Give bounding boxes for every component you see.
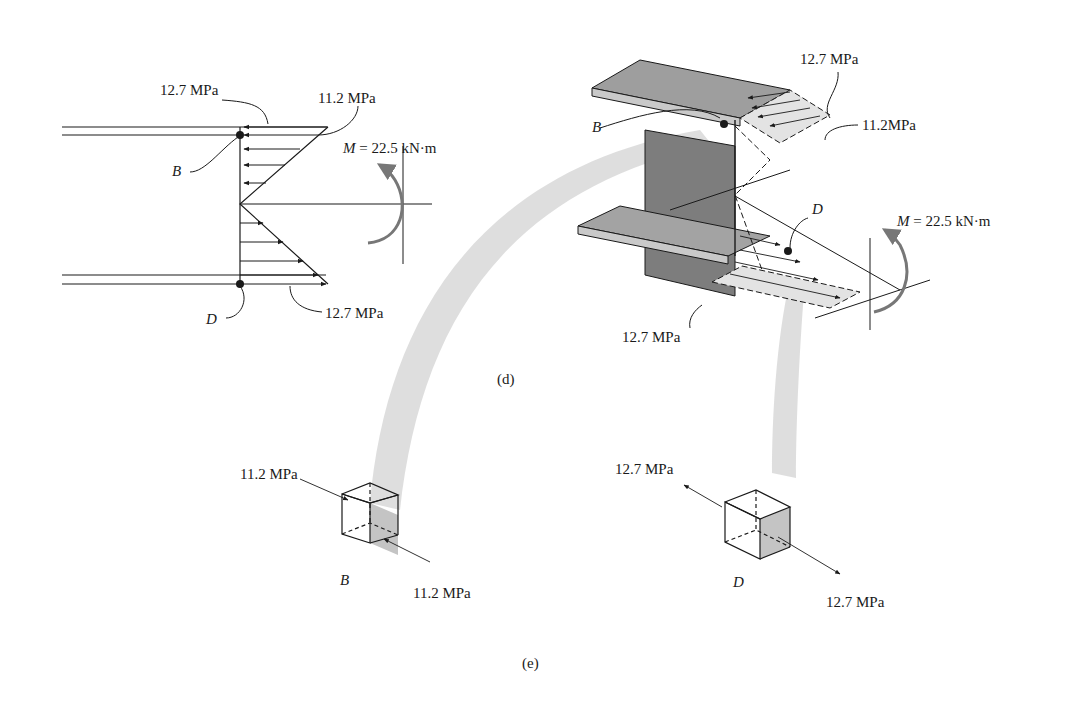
beam3d-moment-symbol: M: [897, 213, 910, 229]
side-point-B-label: B: [172, 164, 181, 179]
beam3d-point-B-label: B: [592, 120, 601, 135]
side-bottom-stress-label: 12.7 MPa: [325, 306, 383, 321]
moment-symbol-3d: [874, 230, 907, 312]
point-B-side: [190, 131, 244, 172]
element-D-point-label: D: [733, 575, 744, 590]
element-B-stress-left: 11.2 MPa: [240, 467, 298, 482]
caption-e: (e): [522, 656, 539, 671]
beam3d-moment-label: M = 22.5 kN·m: [897, 214, 990, 229]
side-point-D-label: D: [206, 312, 217, 327]
stress-element-B: [300, 479, 430, 562]
ribbon-D: [772, 280, 805, 478]
element-D-stress-left: 12.7 MPa: [615, 462, 673, 477]
stress-element-D: [684, 485, 840, 574]
moment-symbol-side: [368, 146, 403, 264]
stress-diagram: [0, 0, 1087, 718]
beam3d-bottom-stress-label: 12.7 MPa: [622, 330, 680, 345]
side-top-stress-label: 12.7 MPa: [160, 83, 218, 98]
side-web-stress-label: 11.2 MPa: [318, 91, 376, 106]
beam3d-point-D-label: D: [812, 202, 823, 217]
side-moment-symbol: M: [343, 140, 356, 156]
side-moment-value: = 22.5 kN·m: [359, 140, 436, 156]
side-view-stress-arrows: [240, 127, 327, 284]
side-moment-label: M = 22.5 kN·m: [343, 141, 436, 156]
point-D-3d: [784, 218, 808, 255]
beam3d-moment-value: = 22.5 kN·m: [913, 213, 990, 229]
element-B-stress-right: 11.2 MPa: [413, 586, 471, 601]
element-D-stress-right: 12.7 MPa: [826, 595, 884, 610]
beam3d-top-stress-label: 12.7 MPa: [800, 52, 858, 67]
element-B-point-label: B: [340, 573, 349, 588]
point-D-side: [226, 280, 244, 318]
beam3d-web-stress-label: 11.2MPa: [862, 118, 916, 133]
caption-d: (d): [497, 372, 515, 387]
